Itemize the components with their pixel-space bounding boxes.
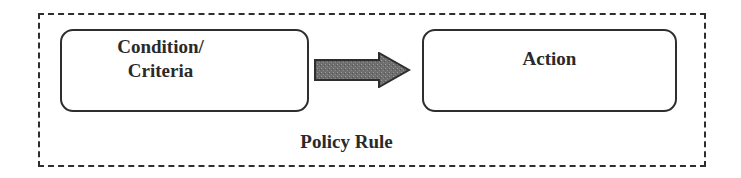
condition-label-line1: Condition/ <box>117 36 204 57</box>
policy-rule-label: Policy Rule <box>300 131 392 152</box>
condition-criteria-box: Condition/ Criteria <box>60 29 309 112</box>
action-box: Action <box>422 29 677 112</box>
policy-rule-caption: Policy Rule <box>0 131 741 153</box>
condition-criteria-label: Condition/ Criteria <box>129 41 216 89</box>
right-arrow-icon <box>313 52 411 88</box>
action-label: Action <box>523 47 577 71</box>
condition-label-line2: Criteria <box>128 60 193 81</box>
